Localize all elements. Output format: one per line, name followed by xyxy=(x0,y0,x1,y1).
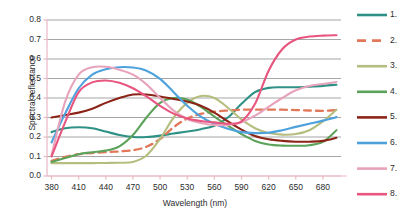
plot-area xyxy=(0,0,415,224)
spectral-reflectance-chart: Spectral reflectance Wavelength (nm) 0.0… xyxy=(0,0,415,224)
curve-8 xyxy=(52,35,337,156)
legend-swatches xyxy=(357,15,387,194)
data-curves xyxy=(52,35,337,163)
